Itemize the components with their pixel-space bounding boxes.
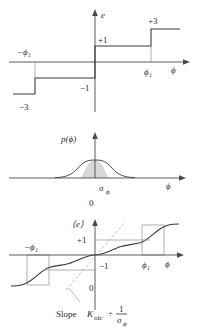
- axis-label-phi: ϕ: [166, 181, 171, 191]
- label-level-minus1: −1: [99, 261, 109, 271]
- panel-average: ⟨e⟩ ϕ +1 −1 −ϕ₁ ϕ₁ 0 Slope K tdc ÷ 1 σ ϕ: [0, 210, 197, 334]
- figure-root: e ϕ +3 +1 −1 −3 −ϕ₁ ϕ₁ p(ϕ) ϕ σ ϕ 0: [0, 0, 197, 334]
- y-axis-arrowhead: [92, 132, 98, 139]
- y-axis-arrowhead: [92, 219, 98, 226]
- label-level-minus1: −1: [80, 83, 90, 93]
- annotation-k-subscript: tdc: [94, 314, 103, 322]
- label-tick-pos-phi1: ϕ₁: [144, 67, 152, 77]
- label-level-plus3: +3: [148, 16, 158, 26]
- label-level-minus3: −3: [19, 102, 29, 112]
- staircase-curve: [13, 29, 180, 94]
- annotation-denominator-subscript: ϕ: [123, 320, 127, 328]
- annotation-k-symbol: K: [86, 309, 94, 319]
- y-axis-arrowhead: [92, 9, 98, 16]
- label-origin-zero: 0: [89, 283, 94, 293]
- label-level-plus1: +1: [77, 235, 87, 245]
- annotation-leader-line: [69, 288, 80, 302]
- label-tick-pos-phi1: ϕ₁: [142, 260, 150, 270]
- x-axis-arrowhead: [179, 175, 186, 181]
- label-level-plus1: +1: [98, 35, 108, 45]
- panel-pdf: p(ϕ) ϕ σ ϕ 0: [0, 115, 197, 210]
- slope-tangent-dashed: [66, 222, 125, 290]
- label-sigma-subscript: ϕ: [106, 188, 110, 196]
- x-axis-arrowhead: [183, 59, 190, 65]
- label-origin-zero: 0: [89, 198, 94, 208]
- axis-label-p-phi: p(ϕ): [60, 134, 76, 144]
- label-tick-neg-phi1: −ϕ₁: [17, 47, 31, 57]
- axis-label-mean-e: ⟨e⟩: [72, 219, 84, 229]
- axis-label-phi: ϕ: [165, 259, 170, 269]
- panel-quantizer: e ϕ +3 +1 −1 −3 −ϕ₁ ϕ₁: [0, 0, 197, 115]
- annotation-fraction-denominator: σ: [117, 315, 122, 325]
- axis-label-e: e: [101, 10, 105, 20]
- annotation-slope-word: Slope: [56, 309, 77, 319]
- label-tick-neg-phi1: −ϕ₁: [24, 242, 38, 252]
- x-axis-arrowhead: [177, 252, 184, 258]
- axis-label-phi: ϕ: [171, 65, 176, 75]
- label-sigma: σ: [99, 183, 104, 193]
- annotation-divide-sign: ÷: [108, 309, 113, 319]
- annotation-fraction-numerator: 1: [119, 304, 124, 314]
